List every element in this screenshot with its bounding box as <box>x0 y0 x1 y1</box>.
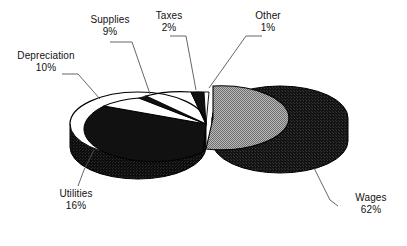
slice-label-utilities-value: 16% <box>38 200 114 212</box>
slice-label-other-value: 1% <box>238 22 298 34</box>
slice-label-other: Other 1% <box>238 10 298 34</box>
slice-label-other-name: Other <box>238 10 298 22</box>
slice-label-utilities: Utilities 16% <box>38 188 114 212</box>
pie-chart: Depreciation 10% Supplies 9% Taxes 2% Ot… <box>0 0 407 246</box>
slice-label-taxes: Taxes 2% <box>142 10 196 34</box>
leader-line-supplies <box>110 42 150 94</box>
slice-label-taxes-name: Taxes <box>142 10 196 22</box>
leader-line-other <box>209 36 262 88</box>
slice-label-depreciation: Depreciation 10% <box>4 50 88 74</box>
slice-label-utilities-name: Utilities <box>38 188 114 200</box>
slice-label-supplies: Supplies 9% <box>76 14 144 38</box>
slice-label-depreciation-value: 10% <box>4 62 88 74</box>
leader-line-taxes <box>170 36 196 90</box>
slice-label-wages-name: Wages <box>340 192 402 204</box>
slice-label-taxes-value: 2% <box>142 22 196 34</box>
slice-label-wages: Wages 62% <box>340 192 402 216</box>
slice-label-wages-value: 62% <box>340 204 402 216</box>
slice-label-depreciation-name: Depreciation <box>4 50 88 62</box>
leader-line-depreciation <box>62 74 100 99</box>
slice-label-supplies-name: Supplies <box>76 14 144 26</box>
leader-line-wages <box>314 168 338 206</box>
slice-label-supplies-value: 9% <box>76 26 144 38</box>
